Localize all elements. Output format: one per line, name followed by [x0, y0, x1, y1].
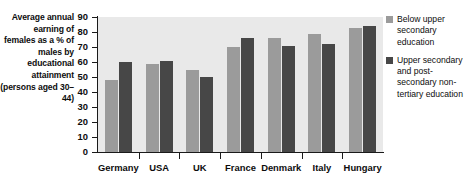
y-axis-tick — [92, 107, 97, 108]
bar-germany-series-0 — [105, 80, 118, 152]
y-axis-tick — [92, 47, 97, 48]
legend-entry-label: Upper secondary and post-secondary non-t… — [397, 55, 463, 99]
bar-denmark-series-0 — [268, 38, 281, 152]
x-axis-line — [97, 152, 384, 153]
y-axis-tick — [92, 92, 97, 93]
legend-swatch-below-upper-secondary — [386, 16, 393, 23]
x-axis-label-hungary: Hungary — [332, 163, 393, 173]
bar-italy-series-1 — [322, 44, 335, 152]
chart-figure: Average annual earning of females as a %… — [0, 0, 470, 187]
bar-germany-series-1 — [119, 62, 132, 152]
y-axis-tick — [92, 122, 97, 123]
y-axis-tick-label: 20 — [62, 117, 88, 126]
y-axis-tick — [92, 17, 97, 18]
y-axis-tick-label: 40 — [62, 87, 88, 96]
bar-france-series-1 — [241, 38, 254, 152]
x-axis-tick — [179, 153, 180, 159]
bar-usa-series-0 — [146, 64, 159, 153]
bar-hungary-series-1 — [363, 26, 376, 152]
y-axis-tick — [92, 152, 97, 153]
y-axis-tick-label: 70 — [62, 42, 88, 51]
bar-france-series-0 — [227, 47, 240, 152]
x-axis-tick — [220, 153, 221, 159]
bar-uk-series-1 — [200, 77, 213, 152]
y-axis-tick-label: 10 — [62, 132, 88, 141]
y-axis-line — [97, 16, 98, 153]
y-axis-tick-label: 90 — [62, 12, 88, 21]
legend-swatch-upper-secondary — [386, 57, 393, 64]
y-axis-tick — [92, 32, 97, 33]
y-axis-tick — [92, 137, 97, 138]
bar-usa-series-1 — [160, 61, 173, 153]
x-axis-tick — [342, 153, 343, 159]
y-axis-tick-label: 30 — [62, 102, 88, 111]
x-axis-tick — [302, 153, 303, 159]
legend-entry: Below upper secondary education — [386, 14, 470, 48]
bar-denmark-series-1 — [282, 46, 295, 153]
bar-italy-series-0 — [308, 34, 321, 153]
bar-uk-series-0 — [186, 70, 199, 153]
y-axis-tick-label: 50 — [62, 72, 88, 81]
bar-hungary-series-0 — [349, 28, 362, 153]
x-axis-tick — [139, 153, 140, 159]
x-axis-tick — [261, 153, 262, 159]
y-axis-tick-label: 80 — [62, 27, 88, 36]
y-axis-tick — [92, 62, 97, 63]
y-axis-tick-label: 0 — [62, 147, 88, 156]
y-axis-tick — [92, 77, 97, 78]
chart-legend: Below upper secondary educationUpper sec… — [386, 14, 470, 107]
legend-entry: Upper secondary and post-secondary non-t… — [386, 55, 470, 100]
y-axis-tick-label: 60 — [62, 57, 88, 66]
legend-entry-label: Below upper secondary education — [397, 14, 445, 47]
